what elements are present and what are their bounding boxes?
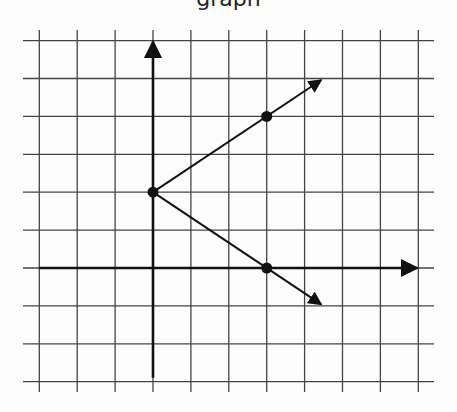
upper-ray-arrow <box>153 80 321 192</box>
upper-point-dot <box>261 111 272 122</box>
graph-diagram: graph <box>0 0 457 412</box>
lower-ray-arrow <box>153 192 321 304</box>
grid-lines <box>23 30 434 392</box>
lower-point-dot <box>261 263 272 274</box>
vertex-dot <box>148 187 159 198</box>
coordinate-plane <box>0 0 457 412</box>
title-fragment: graph <box>0 0 457 11</box>
